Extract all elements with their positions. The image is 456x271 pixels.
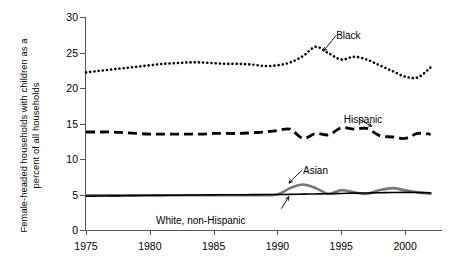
x-axis-line (85, 230, 442, 231)
y-tick-mark (80, 53, 86, 54)
y-tick-mark (80, 17, 86, 18)
x-tick-mark (86, 230, 87, 235)
leader-arrowhead (285, 197, 289, 201)
y-tick-label-30: 30 (48, 12, 78, 23)
y-tick-mark (80, 88, 86, 89)
y-tick-label-15: 15 (48, 119, 78, 130)
series-line-white-non-hispanic (86, 192, 431, 196)
x-tick-label-1985: 1985 (189, 240, 239, 252)
y-tick-label-25: 25 (48, 48, 78, 59)
leader-arrowhead (323, 47, 327, 51)
y-axis-title-line1: Female-headed households with children a… (18, 39, 30, 233)
annotation-label-black: Black (336, 30, 360, 41)
x-tick-mark (405, 230, 406, 235)
leader-line-asian (289, 170, 302, 183)
y-tick-label-20: 20 (48, 83, 78, 94)
y-tick-label-0: 0 (48, 225, 78, 236)
x-tick-label-1990: 1990 (252, 240, 302, 252)
y-tick-mark (80, 195, 86, 196)
x-tick-mark (277, 230, 278, 235)
x-tick-mark (341, 230, 342, 235)
y-tick-mark (80, 159, 86, 160)
x-tick-mark (214, 230, 215, 235)
x-tick-label-1995: 1995 (316, 240, 366, 252)
leader-arrowhead (289, 179, 293, 183)
y-tick-mark (80, 124, 86, 125)
leader-line-black (323, 35, 336, 51)
series-line-asian (86, 185, 431, 196)
y-axis-title-line2: percent of all households (30, 83, 42, 189)
chart-container: Female-headed households with children a… (0, 0, 456, 271)
x-tick-label-1980: 1980 (125, 240, 175, 252)
annotation-label-white-non-hispanic: White, non-Hispanic (156, 215, 245, 226)
y-tick-label-5: 5 (48, 190, 78, 201)
series-line-hispanic (86, 128, 431, 139)
x-tick-label-2000: 2000 (380, 240, 430, 252)
annotation-label-hispanic: Hispanic (344, 114, 382, 125)
y-tick-label-10: 10 (48, 154, 78, 165)
x-tick-mark (150, 230, 151, 235)
annotation-label-asian: Asian (303, 165, 328, 176)
x-tick-label-1975: 1975 (61, 240, 111, 252)
series-line-black (86, 47, 431, 78)
leader-line-white-non-hispanic (281, 197, 289, 209)
